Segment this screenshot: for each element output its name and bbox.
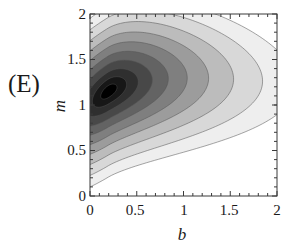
contour-plot-figure: (E) m b 2 1.5 1 0.5 0 0 0.5 1 1.5 2 <box>0 0 299 251</box>
contour-plot-canvas <box>0 0 299 251</box>
